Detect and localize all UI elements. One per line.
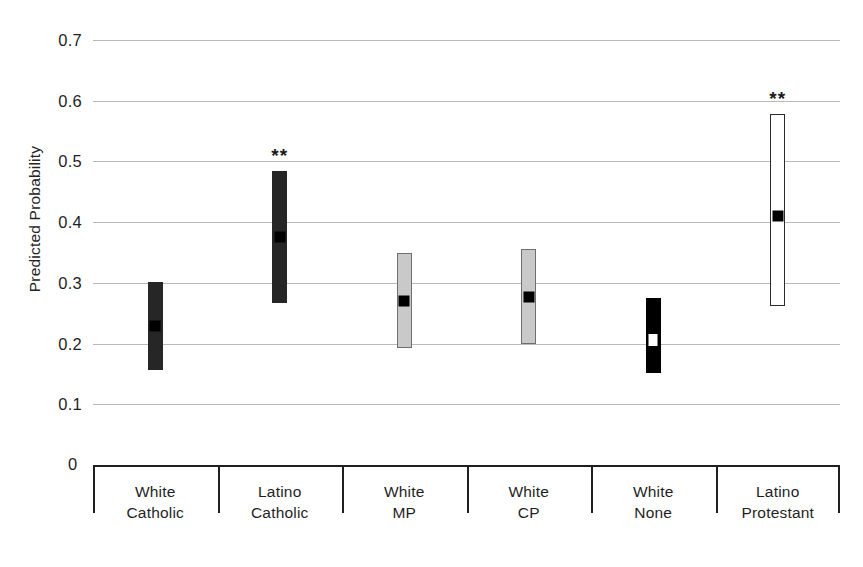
confidence-interval-bar [397,253,412,348]
category-label-line: White [467,482,592,503]
chart-figure: Predicted Probability 0.70.60.50.40.30.2… [0,0,863,567]
point-estimate-marker [649,334,658,346]
y-axis-tick-label: 0.1 [58,395,82,414]
point-estimate-marker [399,295,410,306]
y-axis-title: Predicted Probability [26,79,44,359]
y-axis-tick-label: 0.7 [58,31,82,50]
y-axis-tick-label: 0.2 [58,334,82,353]
category-label-line: White [93,482,218,503]
category-label-line: MP [342,503,467,524]
gridline [93,404,840,405]
category-label-line: Catholic [93,503,218,524]
confidence-interval-bar [272,171,287,303]
y-axis-tick-label: 0.6 [58,91,82,110]
point-estimate-marker [772,210,783,221]
gridline [93,161,840,162]
gridline [93,222,840,223]
point-estimate-marker [523,292,534,303]
confidence-interval-bar [521,249,536,343]
category-label-line: CP [467,503,592,524]
confidence-interval-bar [646,298,661,373]
y-axis-zero-label: 0 [68,455,77,474]
point-estimate-marker [274,232,285,243]
category-label-line: None [591,503,716,524]
plot-area: 0.70.60.50.40.30.20.1**** [93,40,840,465]
category-label-line: Latino [218,482,343,503]
y-axis-tick-label: 0.5 [58,152,82,171]
category-label: WhiteCatholic [93,482,218,524]
confidence-interval-bar [770,114,785,306]
gridline [93,344,840,345]
category-label: WhiteCP [467,482,592,524]
significance-marker: ** [271,146,288,165]
confidence-interval-bar [148,282,163,369]
category-label: WhiteNone [591,482,716,524]
category-label: LatinoCatholic [218,482,343,524]
point-estimate-marker [150,321,161,332]
category-label-line: Catholic [218,503,343,524]
category-label-line: White [591,482,716,503]
category-label-line: Protestant [716,503,841,524]
category-label-line: Latino [716,482,841,503]
gridline [93,283,840,284]
category-label: WhiteMP [342,482,467,524]
gridline [93,101,840,102]
category-label: LatinoProtestant [716,482,841,524]
y-axis-tick-label: 0.4 [58,213,82,232]
significance-marker: ** [769,89,786,108]
gridline [93,40,840,41]
category-axis: WhiteCatholicLatinoCatholicWhiteMPWhiteC… [93,465,840,525]
y-axis-tick-label: 0.3 [58,273,82,292]
category-label-line: White [342,482,467,503]
